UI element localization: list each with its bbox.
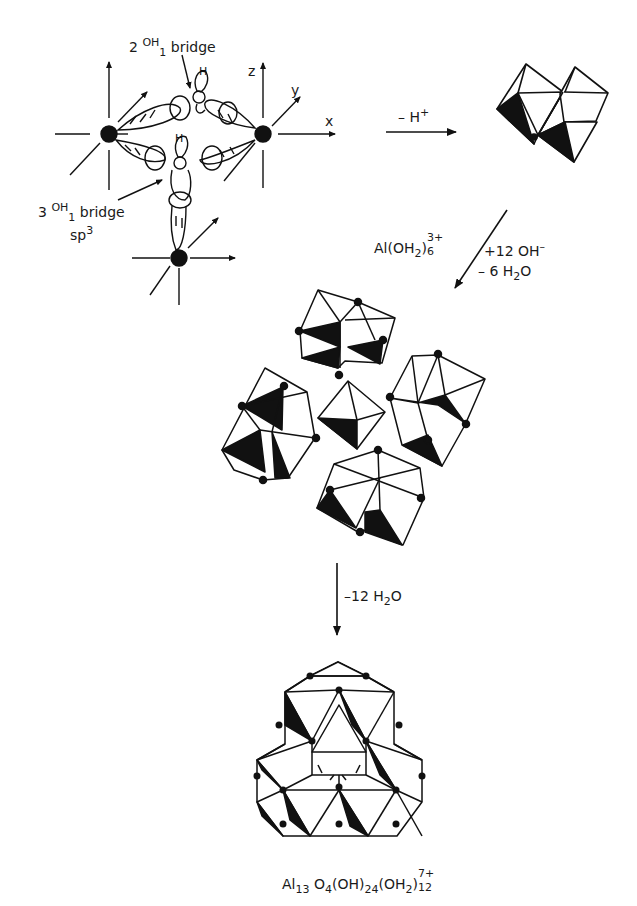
axis-label-y: y xyxy=(291,83,299,97)
step2-line2-end: O xyxy=(520,263,531,279)
charge: 3+ xyxy=(427,232,443,243)
svg-text:H: H xyxy=(175,132,183,145)
o: O xyxy=(314,876,325,892)
step3-text: –12 H xyxy=(344,588,384,604)
word: bridge xyxy=(171,39,216,55)
label-sp3: sp3 xyxy=(70,228,93,242)
axis-label-x: x xyxy=(325,114,333,128)
structure-dimer xyxy=(497,64,608,162)
species: OH xyxy=(51,201,68,214)
o-sub: 4 xyxy=(325,883,332,896)
step2-line1-sup: – xyxy=(540,240,546,253)
coef: 3 xyxy=(38,204,47,220)
step3-sub: 2 xyxy=(384,595,391,608)
svg-text:H: H xyxy=(199,65,207,78)
al-aqua-sub: 2 xyxy=(414,247,421,260)
word: bridge xyxy=(80,204,125,220)
structure-keggin xyxy=(254,662,426,836)
al-center-left xyxy=(55,62,147,190)
pointer-3oh xyxy=(118,180,162,200)
group-center xyxy=(318,381,385,449)
product-formula: Al13 O4(OH)24(OH2)7+12 xyxy=(282,872,438,898)
group-left xyxy=(222,368,320,484)
step2-line1-text: +12 OH xyxy=(484,243,540,259)
product-charge: 7+12 xyxy=(418,872,438,898)
label-2oh-bridge: 2 OH1 bridge xyxy=(129,40,216,54)
label-step2-line1: +12 OH– xyxy=(484,244,545,258)
structure-intermediate xyxy=(222,290,485,545)
count: 6 xyxy=(427,246,434,257)
group-top xyxy=(296,290,396,379)
label-3oh-bridge: 3 OH1 bridge xyxy=(38,205,125,219)
label-step3: –12 H2O xyxy=(344,589,402,603)
al-center-bottom xyxy=(132,218,235,305)
hybrid: sp xyxy=(70,227,86,243)
axis-label-z: z xyxy=(248,64,255,78)
group-right xyxy=(387,351,486,467)
step1-sup: + xyxy=(420,106,429,119)
al-aqua-charge: 3+6 xyxy=(427,236,443,262)
oh2-sub: 2 xyxy=(405,883,412,896)
oh-sub: 24 xyxy=(364,883,378,896)
oh2: (OH xyxy=(378,876,405,892)
al: Al xyxy=(282,876,295,892)
hybrid-sup: 3 xyxy=(86,224,93,237)
al-aqua-main: Al(OH xyxy=(374,240,414,256)
step3-end: O xyxy=(391,588,402,604)
group-bottom xyxy=(317,447,425,546)
species: OH xyxy=(142,36,159,49)
step2-line2-text: – 6 H xyxy=(478,263,513,279)
step2-line2-sub: 2 xyxy=(513,270,520,283)
count: 12 xyxy=(418,882,432,893)
label-al-aqua: Al(OH2)3+6 xyxy=(374,236,443,262)
subscript: 1 xyxy=(159,46,166,59)
charge: 7+ xyxy=(418,868,434,879)
label-step1: – H+ xyxy=(398,110,429,124)
pointer-2oh xyxy=(182,55,190,88)
subscript: 1 xyxy=(68,211,75,224)
label-step2-line2: – 6 H2O xyxy=(478,264,531,278)
coef: 2 xyxy=(129,39,138,55)
diagram-canvas: H H xyxy=(0,0,637,906)
oh: (OH) xyxy=(332,876,364,892)
step1-text: – H xyxy=(398,109,420,125)
al-sub: 13 xyxy=(295,883,309,896)
